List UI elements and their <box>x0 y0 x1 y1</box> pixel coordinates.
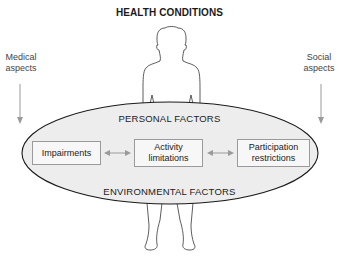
social-aspects-line1: Social <box>300 52 338 63</box>
human-figure-icon <box>143 27 200 105</box>
participation-label-line2: restrictions <box>249 153 299 164</box>
impairments-box: Impairments <box>32 141 101 165</box>
activity-limitations-box: Activity limitations <box>134 139 203 167</box>
medical-aspects-line2: aspects <box>2 63 40 74</box>
medical-aspects-line1: Medical <box>2 52 40 63</box>
medical-aspects-label: Medical aspects <box>2 52 40 74</box>
human-legs-icon <box>145 203 195 250</box>
impairments-label: Impairments <box>42 148 92 159</box>
activity-label-line2: limitations <box>148 153 188 164</box>
social-aspects-label: Social aspects <box>300 52 338 74</box>
diagram-graphics <box>0 0 339 256</box>
participation-restrictions-box: Participation restrictions <box>237 139 310 167</box>
personal-factors-label: PERSONAL FACTORS <box>0 113 339 124</box>
social-aspects-line2: aspects <box>300 63 338 74</box>
diagram-title: HEALTH CONDITIONS <box>0 7 339 18</box>
icf-diagram: HEALTH CONDITIONS Medical aspects Social… <box>0 0 339 256</box>
environmental-factors-label: ENVIRONMENTAL FACTORS <box>0 186 339 197</box>
activity-label-line1: Activity <box>148 142 188 153</box>
participation-label-line1: Participation <box>249 142 299 153</box>
